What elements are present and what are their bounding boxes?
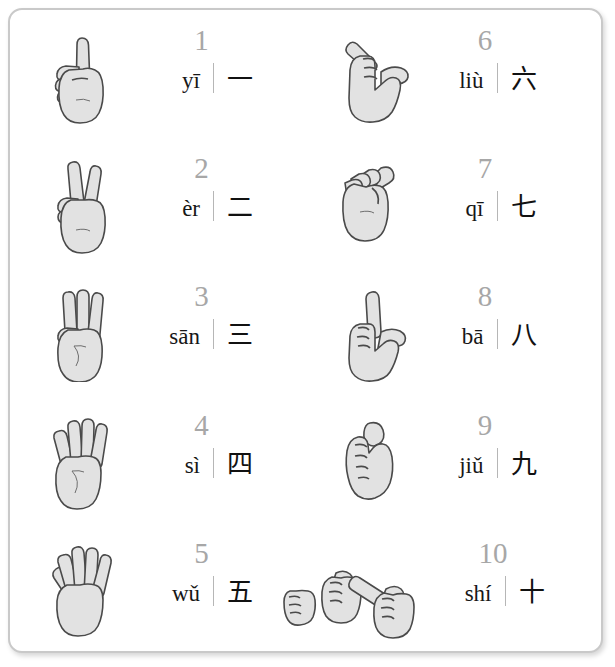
thumb-and-pinky-hand-sign <box>324 22 420 126</box>
two-fingers-up-hand-sign <box>36 150 132 254</box>
separator <box>213 63 214 93</box>
number-digit: 7 <box>478 154 493 183</box>
number-digit: 4 <box>194 411 209 440</box>
pinyin-text: liù <box>430 69 484 92</box>
index-finger-up-hand-sign <box>36 22 132 126</box>
pinyin-text: jiǔ <box>430 454 484 477</box>
number-digit: 8 <box>478 282 493 311</box>
number-label-group: 5 wǔ 五 <box>146 565 257 609</box>
three-fingers-up-hand-sign <box>36 278 132 382</box>
number-signs-grid: 1 yī 一 <box>10 10 601 651</box>
number-digit: 9 <box>478 411 493 440</box>
pinyin-text: sān <box>146 325 200 348</box>
number-entry-10[interactable]: 10 shí 十 <box>306 523 602 651</box>
number-label-group: 6 liù 六 <box>430 52 541 96</box>
number-digit: 1 <box>194 26 209 55</box>
number-entry-1[interactable]: 1 yī 一 <box>10 10 306 138</box>
number-label-group: 1 yī 一 <box>146 52 257 96</box>
number-entry-4[interactable]: 4 sì 四 <box>10 395 306 523</box>
number-label-group: 8 bā 八 <box>430 308 541 352</box>
number-entry-9[interactable]: 9 jiǔ 九 <box>306 395 602 523</box>
hanzi-character: 十 <box>519 579 549 605</box>
crossed-index-fingers-hand-sign <box>278 535 428 639</box>
number-digit: 6 <box>478 26 493 55</box>
number-digit: 10 <box>479 539 508 568</box>
hanzi-character: 九 <box>511 451 541 477</box>
hanzi-character: 七 <box>511 194 541 220</box>
number-digit: 5 <box>194 539 209 568</box>
number-label-group: 9 jiǔ 九 <box>430 437 541 481</box>
thumb-and-index-hand-sign <box>324 278 420 382</box>
separator <box>213 319 214 349</box>
number-entry-6[interactable]: 6 liù 六 <box>306 10 602 138</box>
hooked-index-finger-hand-sign <box>324 407 420 511</box>
number-label-group: 2 èr 二 <box>146 180 257 224</box>
pinyin-text: shí <box>438 582 492 605</box>
separator <box>505 576 506 606</box>
number-signs-card: 1 yī 一 <box>8 8 603 653</box>
pinyin-text: yī <box>146 69 200 92</box>
separator <box>497 448 498 478</box>
hanzi-character: 二 <box>227 194 257 220</box>
pinyin-text: èr <box>146 197 200 220</box>
number-digit: 2 <box>194 154 209 183</box>
pinyin-text: wǔ <box>146 582 200 605</box>
separator <box>213 576 214 606</box>
separator <box>497 191 498 221</box>
separator <box>213 448 214 478</box>
hanzi-character: 八 <box>511 322 541 348</box>
hanzi-character: 六 <box>511 66 541 92</box>
hanzi-character: 四 <box>227 451 257 477</box>
number-digit: 3 <box>194 282 209 311</box>
number-entry-7[interactable]: 7 qī 七 <box>306 138 602 266</box>
number-label-group: 4 sì 四 <box>146 437 257 481</box>
separator <box>497 63 498 93</box>
four-fingers-up-hand-sign <box>36 407 132 511</box>
pinched-fingertips-hand-sign <box>324 150 420 254</box>
number-entry-8[interactable]: 8 bā 八 <box>306 266 602 394</box>
hanzi-character: 五 <box>227 579 257 605</box>
pinyin-text: bā <box>430 325 484 348</box>
number-entry-2[interactable]: 2 èr 二 <box>10 138 306 266</box>
number-label-group: 10 shí 十 <box>438 565 549 609</box>
hanzi-character: 一 <box>227 66 257 92</box>
number-entry-3[interactable]: 3 sān 三 <box>10 266 306 394</box>
hanzi-character: 三 <box>227 322 257 348</box>
separator <box>497 319 498 349</box>
number-label-group: 3 sān 三 <box>146 308 257 352</box>
number-label-group: 7 qī 七 <box>430 180 541 224</box>
separator <box>213 191 214 221</box>
pinyin-text: qī <box>430 197 484 220</box>
open-palm-five-hand-sign <box>36 535 132 639</box>
number-entry-5[interactable]: 5 wǔ 五 <box>10 523 306 651</box>
pinyin-text: sì <box>146 454 200 477</box>
